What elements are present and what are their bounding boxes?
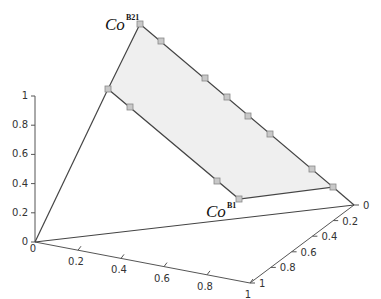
y-tick-label: 0.6 [301,247,317,258]
vertex-marker [309,166,315,172]
z-tick-label: 0.6 [12,148,28,159]
x-tick-label: 0.8 [197,281,213,292]
x-tick [207,271,210,275]
feasible-region [108,24,333,199]
x-tick-label: 1 [245,289,251,299]
vertex-marker [224,94,230,100]
vertex-marker [105,86,111,92]
x-tick-label: 0.6 [154,273,170,284]
z-tick-label: 0.4 [12,178,28,189]
z-tick-label: 1 [22,90,28,101]
label-top-sup: B21 [126,13,139,22]
simplex-edge-base [35,205,354,242]
y-tick-label: 0 [363,200,369,211]
x-tick [78,246,81,250]
y-tick-label: 0.2 [342,216,358,227]
z-tick-label: 0.2 [12,207,28,218]
x-tick [164,263,167,267]
vertex-marker [202,75,208,81]
vertex-marker [236,196,242,202]
label-bottom-sup: B1 [227,201,236,210]
vertex-marker [330,184,336,190]
y-tick-label: 0.4 [321,231,337,242]
y-axis [250,205,354,283]
vertex-marker [245,113,251,119]
vertex-marker [267,131,273,137]
label-top: Co [105,15,125,34]
x-tick-label: 0 [30,243,36,254]
y-tick-label: 0.8 [280,262,296,273]
y-tick-label: 1 [259,278,265,289]
z-tick-label: 0.8 [12,119,28,130]
simplex-edge-left [35,89,108,242]
vertex-marker [214,178,220,184]
vertex-marker [127,104,133,110]
vertex-marker [158,38,164,44]
x-tick [121,254,124,258]
x-tick-label: 0.4 [111,264,127,275]
x-tick-label: 0.2 [68,256,84,267]
simplex-chart: 00.20.40.60.8100.20.40.60.8100.20.40.60.… [0,0,381,299]
z-tick-label: 0 [22,236,28,247]
label-bottom: Co [206,202,226,221]
